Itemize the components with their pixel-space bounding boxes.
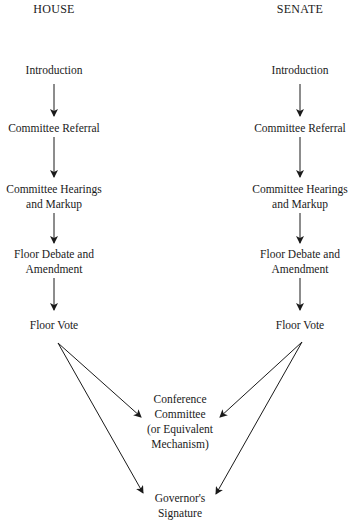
senate-introduction: Introduction	[272, 63, 329, 78]
senate-to-conference-arrow	[220, 342, 302, 417]
house-header: HOUSE	[33, 2, 75, 17]
house-to-governor-arrow	[58, 343, 143, 493]
senate-committee-referral: Committee Referral	[254, 121, 346, 136]
senate-committee-hearings: Committee Hearings and Markup	[252, 182, 348, 212]
house-to-conference-arrow	[58, 343, 141, 417]
senate-floor-vote: Floor Vote	[276, 318, 324, 333]
senate-header: SENATE	[277, 2, 323, 17]
house-committee-referral: Committee Referral	[8, 121, 100, 136]
conference-committee: Conference Committee (or Equivalent Mech…	[147, 392, 213, 452]
house-floor-debate: Floor Debate and Amendment	[14, 247, 94, 277]
house-floor-vote: Floor Vote	[30, 318, 78, 333]
house-committee-hearings: Committee Hearings and Markup	[6, 182, 102, 212]
senate-floor-debate: Floor Debate and Amendment	[260, 247, 340, 277]
house-introduction: Introduction	[26, 63, 83, 78]
senate-to-governor-arrow	[216, 342, 302, 494]
governors-signature: Governor's Signature	[155, 491, 206, 521]
